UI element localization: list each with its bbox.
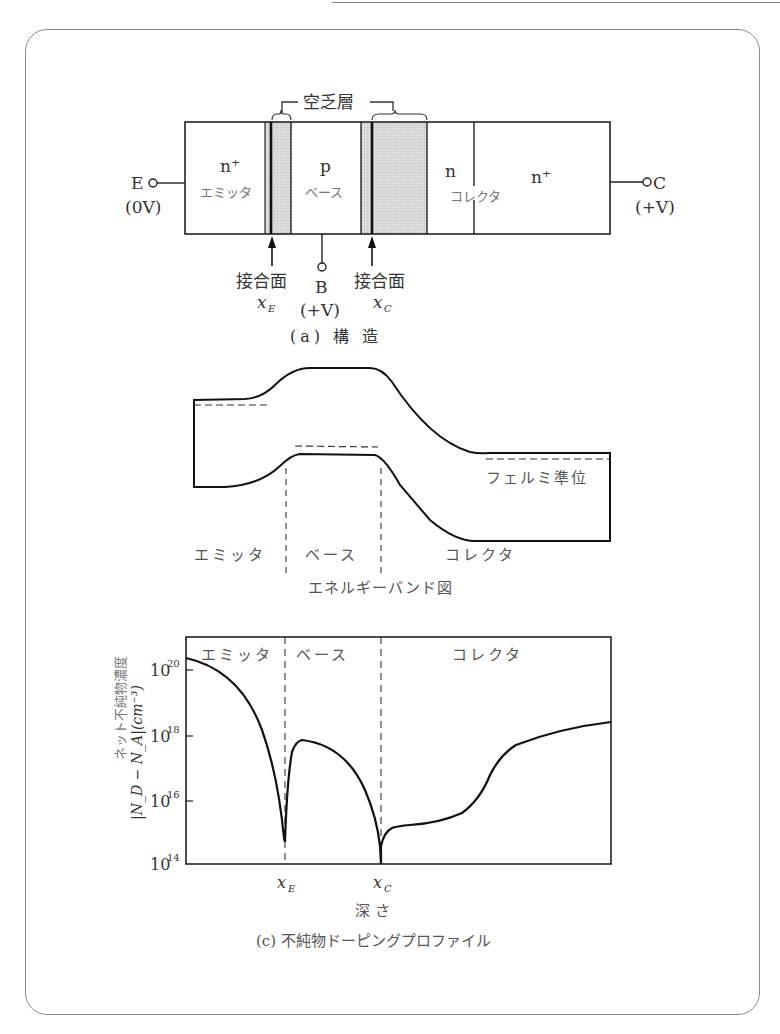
- plot-area: [186, 637, 611, 864]
- svg-text:ベース: ベース: [296, 646, 349, 664]
- svg-text:C: C: [384, 883, 392, 894]
- svg-text:|N_D − N_A|(cm⁻³): |N_D − N_A|(cm⁻³): [129, 685, 146, 820]
- doping-caption: (c) 不純物ドーピングプロファイル: [256, 932, 491, 950]
- xE-label: x: [277, 873, 286, 892]
- svg-text:E: E: [287, 883, 296, 894]
- doping-curve: [186, 658, 611, 864]
- doping-profile-chart: 10 20 10 18 10 16 10 14 ネット不純物濃度 |N_D − …: [0, 0, 780, 1034]
- svg-text:エミッタ: エミッタ: [201, 646, 273, 664]
- svg-text:ネット不純物濃度: ネット不純物濃度: [113, 656, 128, 760]
- y-axis-tick-labels: 10 20 10 18 10 16 10 14: [150, 658, 180, 874]
- x-axis-label: 深 さ: [355, 902, 390, 920]
- svg-text:18: 18: [167, 724, 180, 735]
- svg-text:14: 14: [167, 852, 180, 863]
- svg-text:16: 16: [167, 789, 180, 800]
- y-axis-label: ネット不純物濃度 |N_D − N_A|(cm⁻³): [113, 656, 146, 820]
- xC-label: x: [373, 873, 382, 892]
- svg-text:コレクタ: コレクタ: [452, 646, 523, 664]
- svg-text:20: 20: [167, 658, 180, 669]
